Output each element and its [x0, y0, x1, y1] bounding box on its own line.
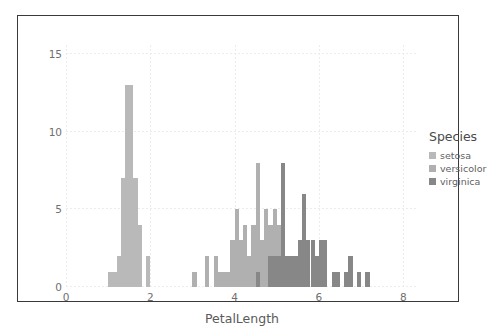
histogram-bar — [138, 225, 142, 287]
legend: Species setosaversicolorvirginica — [429, 129, 491, 189]
y-tick-label: 5 — [55, 203, 62, 215]
legend-item-label: setosa — [440, 150, 471, 161]
x-tick-label: 2 — [147, 291, 154, 303]
legend-swatch-icon — [429, 178, 436, 185]
histogram-bar — [146, 256, 150, 287]
legend-items: setosaversicolorvirginica — [429, 150, 491, 187]
x-tick-label: 4 — [231, 291, 238, 303]
histogram-bar — [323, 240, 327, 287]
legend-item-label: virginica — [440, 176, 480, 187]
legend-title: Species — [429, 129, 491, 144]
legend-swatch-icon — [429, 152, 436, 159]
legend-item[interactable]: versicolor — [429, 163, 491, 174]
histogram-bar — [357, 272, 361, 288]
histogram-bar — [192, 272, 196, 288]
legend-item[interactable]: setosa — [429, 150, 491, 161]
y-tick-label: 15 — [49, 48, 62, 60]
histogram-bar — [205, 256, 209, 287]
legend-item-label: versicolor — [440, 163, 486, 174]
bar-layer — [66, 45, 418, 287]
histogram-bar — [365, 272, 369, 288]
y-tick-label: 10 — [49, 126, 62, 138]
histogram-bar — [256, 272, 260, 288]
chart-frame: 051015 02468 PetalLength Species setosav… — [17, 15, 459, 302]
x-tick-label: 0 — [63, 291, 70, 303]
y-axis-ticks: 051015 — [38, 45, 62, 287]
x-axis-label: PetalLength — [66, 311, 418, 326]
plot-area — [66, 45, 418, 287]
legend-swatch-icon — [429, 165, 436, 172]
x-tick-label: 8 — [400, 291, 407, 303]
x-axis-ticks: 02468 — [66, 291, 418, 307]
legend-item[interactable]: virginica — [429, 176, 491, 187]
x-tick-label: 6 — [316, 291, 323, 303]
histogram-bar — [336, 272, 340, 288]
y-tick-label: 0 — [55, 281, 62, 293]
histogram-bar — [348, 256, 352, 287]
